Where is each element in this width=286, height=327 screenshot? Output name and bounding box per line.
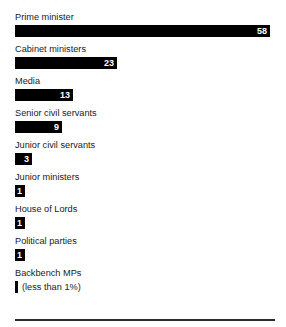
- bar-value-label: 9: [54, 121, 62, 133]
- bar-fill: 1: [15, 249, 25, 261]
- bar-category-label: Junior civil servants: [15, 140, 286, 153]
- bar-row: Media13: [0, 76, 286, 108]
- bar-row: Cabinet ministers23: [0, 44, 286, 76]
- bar-category-label: Media: [15, 76, 286, 89]
- bar-fill: 3: [15, 153, 32, 165]
- bar-row: Senior civil servants9: [0, 108, 286, 140]
- bar-list: Prime minister58Cabinet ministers23Media…: [0, 12, 286, 300]
- bar-category-label: Backbench MPs: [15, 268, 286, 281]
- bar-value-label: 58: [257, 25, 270, 37]
- bar-value-label: 1: [17, 217, 25, 229]
- bar-fill: 9: [15, 121, 62, 133]
- bar-row: Junior ministers1: [0, 172, 286, 204]
- bar-track: 23: [15, 57, 286, 69]
- cropped-header-artifact: · ·: [0, 0, 286, 8]
- bar-row: Backbench MPs(less than 1%): [0, 268, 286, 300]
- bar-track: (less than 1%): [15, 281, 286, 293]
- bar-category-label: Cabinet ministers: [15, 44, 286, 57]
- bar-value-label: 23: [104, 57, 117, 69]
- bar-value-label: 13: [60, 89, 73, 101]
- bar-track: 13: [15, 89, 286, 101]
- bar-note-label: (less than 1%): [18, 281, 81, 293]
- bar-category-label: House of Lords: [15, 204, 286, 217]
- bar-chart: · · Prime minister58Cabinet ministers23M…: [0, 0, 286, 327]
- bar-fill: 1: [15, 217, 25, 229]
- bar-fill: 58: [15, 25, 270, 37]
- bar-value-label: 1: [17, 249, 25, 261]
- bar-track: 9: [15, 121, 286, 133]
- bar-track: 1: [15, 185, 286, 197]
- bar-row: Political parties1: [0, 236, 286, 268]
- footer-divider: [15, 319, 275, 321]
- bar-value-label: 1: [17, 185, 25, 197]
- bar-track: 1: [15, 217, 286, 229]
- bar-category-label: Senior civil servants: [15, 108, 286, 121]
- bar-value-label: 3: [24, 153, 32, 165]
- bar-category-label: Prime minister: [15, 12, 286, 25]
- bar-row: House of Lords1: [0, 204, 286, 236]
- bar-row: Prime minister58: [0, 12, 286, 44]
- bar-track: 58: [15, 25, 286, 37]
- bar-row: Junior civil servants3: [0, 140, 286, 172]
- bar-fill: 23: [15, 57, 117, 69]
- cropped-header-text: · ·: [120, 0, 129, 3]
- bar-track: 1: [15, 249, 286, 261]
- bar-track: 3: [15, 153, 286, 165]
- bar-category-label: Junior ministers: [15, 172, 286, 185]
- bar-category-label: Political parties: [15, 236, 286, 249]
- bar-fill: 1: [15, 185, 25, 197]
- bar-fill: 13: [15, 89, 73, 101]
